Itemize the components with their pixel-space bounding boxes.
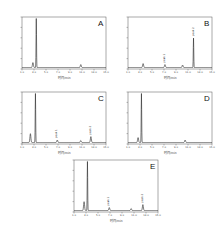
x-axis-label-b: 时间/min xyxy=(164,76,177,80)
svg-text:13.0: 13.0 xyxy=(91,146,97,149)
svg-text:3.0: 3.0 xyxy=(32,71,36,74)
svg-text:15.0: 15.0 xyxy=(155,214,161,217)
svg-text:3.0: 3.0 xyxy=(138,71,142,74)
panel-label-b: B xyxy=(204,19,209,28)
svg-text:5.0: 5.0 xyxy=(150,146,154,149)
svg-text:9.0: 9.0 xyxy=(174,71,178,74)
svg-text:1.0: 1.0 xyxy=(72,214,76,217)
svg-text:5.0: 5.0 xyxy=(44,71,48,74)
svg-text:9.0: 9.0 xyxy=(68,146,72,149)
svg-text:11.0: 11.0 xyxy=(79,71,85,74)
svg-text:3.0: 3.0 xyxy=(138,146,142,149)
chromatogram-panel-e: 1.03.05.07.09.011.013.015.0peak 1peak 2 … xyxy=(70,158,162,220)
svg-text:5.0: 5.0 xyxy=(96,214,100,217)
svg-text:7.0: 7.0 xyxy=(162,146,166,149)
svg-text:1.0: 1.0 xyxy=(126,146,130,149)
svg-text:9.0: 9.0 xyxy=(174,146,178,149)
svg-text:11.0: 11.0 xyxy=(185,146,191,149)
x-axis-label-a: 时间/min xyxy=(58,76,71,80)
svg-text:peak 1: peak 1 xyxy=(107,196,110,205)
svg-text:peak 2: peak 2 xyxy=(192,27,195,36)
svg-text:13.0: 13.0 xyxy=(197,146,203,149)
svg-text:1.0: 1.0 xyxy=(20,146,24,149)
svg-text:11.0: 11.0 xyxy=(185,71,191,74)
x-axis-label-e: 时间/min xyxy=(110,219,123,223)
panel-label-e: E xyxy=(150,162,155,171)
svg-text:5.0: 5.0 xyxy=(150,71,154,74)
svg-text:9.0: 9.0 xyxy=(120,214,124,217)
chromatogram-plot-b: 1.03.05.07.09.011.013.015.0peak 1peak 2 xyxy=(124,15,214,73)
svg-text:peak 2: peak 2 xyxy=(141,193,144,202)
svg-text:peak 1: peak 1 xyxy=(163,53,166,62)
svg-text:11.0: 11.0 xyxy=(131,214,137,217)
x-axis-label-c: 时间/min xyxy=(58,151,71,155)
chromatogram-panel-b: 1.03.05.07.09.011.013.015.0peak 1peak 2 … xyxy=(124,15,216,77)
svg-text:7.0: 7.0 xyxy=(56,146,60,149)
svg-text:5.0: 5.0 xyxy=(44,146,48,149)
x-axis-label-d: 时间/min xyxy=(164,151,177,155)
svg-text:1.0: 1.0 xyxy=(126,71,130,74)
svg-text:15.0: 15.0 xyxy=(103,71,109,74)
panel-label-d: D xyxy=(204,94,210,103)
chromatogram-plot-d: 1.03.05.07.09.011.013.015.0 xyxy=(124,90,214,148)
svg-text:3.0: 3.0 xyxy=(32,146,36,149)
svg-text:3.0: 3.0 xyxy=(84,214,88,217)
svg-text:1.0: 1.0 xyxy=(20,71,24,74)
svg-text:7.0: 7.0 xyxy=(108,214,112,217)
svg-text:15.0: 15.0 xyxy=(209,71,215,74)
panel-label-c: C xyxy=(98,94,104,103)
chromatogram-plot-e: 1.03.05.07.09.011.013.015.0peak 1peak 2 xyxy=(70,158,160,216)
chromatogram-plot-c: 1.03.05.07.09.011.013.015.0peak 1peak 2 xyxy=(18,90,108,148)
svg-text:15.0: 15.0 xyxy=(209,146,215,149)
chromatogram-panel-c: 1.03.05.07.09.011.013.015.0peak 1peak 2 … xyxy=(18,90,110,152)
svg-text:15.0: 15.0 xyxy=(103,146,109,149)
svg-text:13.0: 13.0 xyxy=(143,214,149,217)
svg-text:7.0: 7.0 xyxy=(162,71,166,74)
chromatogram-panel-d: 1.03.05.07.09.011.013.015.0 D 时间/min xyxy=(124,90,216,152)
svg-text:9.0: 9.0 xyxy=(68,71,72,74)
chromatogram-panel-a: 1.03.05.07.09.011.013.015.0 A 时间/min xyxy=(18,15,110,77)
svg-text:11.0: 11.0 xyxy=(79,146,85,149)
svg-text:13.0: 13.0 xyxy=(91,71,97,74)
svg-text:peak 2: peak 2 xyxy=(89,125,92,134)
chromatogram-plot-a: 1.03.05.07.09.011.013.015.0 xyxy=(18,15,108,73)
svg-text:13.0: 13.0 xyxy=(197,71,203,74)
svg-text:peak 1: peak 1 xyxy=(55,129,58,138)
svg-text:7.0: 7.0 xyxy=(56,71,60,74)
panel-label-a: A xyxy=(98,19,103,28)
